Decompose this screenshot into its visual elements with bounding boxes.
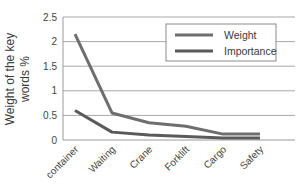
- x-tick-label: container: [44, 143, 81, 180]
- y-tick-label: 2: [51, 36, 57, 47]
- x-tick-label: Cargo: [201, 143, 228, 170]
- y-tick-label: 1: [51, 85, 57, 96]
- x-tick-label: Safety: [238, 144, 266, 172]
- y-tick-label: 0: [51, 135, 57, 146]
- x-axis-ticks: containerWaitingCraneForkliftCargoSafety: [44, 143, 266, 180]
- y-axis-ticks: 00.511.522.5: [43, 12, 57, 146]
- x-tick-label: Forklift: [162, 143, 191, 172]
- x-tick-label: Crane: [127, 143, 154, 170]
- x-tick-label: Waiting: [86, 144, 117, 175]
- legend-label-importance: Importance: [224, 45, 277, 57]
- line-chart: 00.511.522.5 containerWaitingCraneForkli…: [0, 0, 308, 195]
- y-tick-label: 0.5: [43, 110, 57, 121]
- legend: Weight Importance: [166, 24, 277, 61]
- legend-label-weight: Weight: [224, 29, 257, 41]
- y-tick-label: 2.5: [43, 12, 57, 23]
- y-tick-label: 1.5: [43, 61, 57, 72]
